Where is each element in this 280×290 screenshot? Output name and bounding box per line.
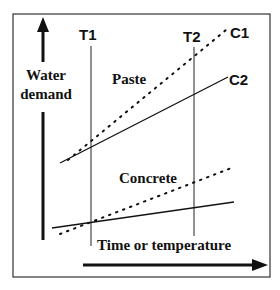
y-axis-arrow-icon (37, 17, 49, 240)
t2-marker-label: T2 (183, 28, 201, 45)
water-demand-diagram: Water demand Time or temperature T1 T2 P… (0, 0, 280, 290)
y-axis-label-line1: Water (26, 67, 66, 83)
paste-c1-dotted-line (68, 30, 226, 160)
concrete-c2-solid-line (52, 202, 234, 228)
c1-curve-label: C1 (230, 24, 249, 41)
y-axis-label-line2: demand (20, 86, 72, 102)
paste-group-label: Paste (112, 71, 146, 87)
concrete-group-label: Concrete (119, 170, 177, 186)
t1-marker-label: T1 (79, 26, 97, 43)
x-axis-arrow-icon (83, 259, 268, 271)
paste-c2-solid-line (60, 77, 228, 163)
x-axis-label: Time or temperature (97, 237, 231, 253)
c2-curve-label: C2 (229, 71, 248, 88)
